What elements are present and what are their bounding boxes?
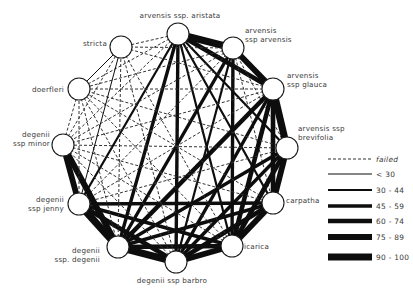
node-circle <box>110 36 132 58</box>
legend-item-90-100: 90 - 100 <box>328 253 409 262</box>
legend-label: < 30 <box>376 170 395 179</box>
node-carpatha: carpatha <box>262 192 320 214</box>
node-circle <box>222 37 244 59</box>
node-circle <box>262 192 284 214</box>
node-circle <box>68 193 90 215</box>
edges-layer <box>63 34 287 262</box>
node-stricta: stricta <box>83 36 132 58</box>
node-circle <box>276 137 298 159</box>
edge-carpatha-jenny <box>79 203 273 204</box>
node-label: icarica <box>244 242 269 251</box>
node-brevifolia: arvensis sspbrevifolia <box>276 124 345 159</box>
node-glauca: arvensisssp glauca <box>262 71 327 100</box>
node-circle <box>167 23 189 45</box>
legend-label: 30 - 44 <box>376 186 404 195</box>
node-circle <box>68 78 90 100</box>
node-label: doerfleri <box>32 85 64 94</box>
edge-icarica-degenii <box>118 246 232 247</box>
legend-label: 45 - 59 <box>376 202 404 211</box>
legend-item-failed: failed <box>328 155 398 164</box>
node-circle <box>52 134 74 156</box>
node-doerfleri: doerfleri <box>32 78 90 100</box>
node-label: degeniissp minor <box>13 130 50 148</box>
node-label: arvensis sspbrevifolia <box>298 124 345 142</box>
legend-label: 90 - 100 <box>376 253 409 262</box>
legend-label: 60 - 74 <box>376 217 404 226</box>
node-minor: degeniissp minor <box>13 130 74 156</box>
legend: failed< 3030 - 4445 - 5960 - 7475 - 8990… <box>328 155 409 262</box>
legend-item-45-59: 45 - 59 <box>328 202 404 211</box>
node-icarica: icarica <box>221 235 269 257</box>
node-label: arvensis ssp. aristata <box>140 11 221 20</box>
node-label: degeniissp jenny <box>28 195 64 213</box>
node-label: degenii ssp barbro <box>137 276 207 285</box>
node-circle <box>262 78 284 100</box>
legend-item-<30: < 30 <box>328 170 395 179</box>
legend-item-75-89: 75 - 89 <box>328 233 404 242</box>
legend-item-60-74: 60 - 74 <box>328 217 404 226</box>
legend-item-30-44: 30 - 44 <box>328 186 404 195</box>
node-circle <box>165 251 187 273</box>
node-label: degeniissp. degenii <box>54 246 100 264</box>
node-circle <box>107 236 129 258</box>
node-circle <box>221 235 243 257</box>
node-label: arvensisssp arvensis <box>245 26 292 44</box>
edge-aristata-jenny <box>79 34 178 204</box>
crossing-network-diagram: arvensis ssp. aristataarvensisssp arvens… <box>0 0 413 292</box>
node-label: carpatha <box>286 196 320 205</box>
legend-label: failed <box>376 155 398 164</box>
legend-label: 75 - 89 <box>376 233 404 242</box>
node-label: arvensisssp glauca <box>287 71 327 89</box>
node-degenii: degeniissp. degenii <box>54 236 129 264</box>
node-label: stricta <box>83 39 107 48</box>
node-jenny: degeniissp jenny <box>28 193 90 215</box>
edge-jenny-stricta <box>79 47 121 204</box>
node-arvensis: arvensisssp arvensis <box>222 26 292 59</box>
